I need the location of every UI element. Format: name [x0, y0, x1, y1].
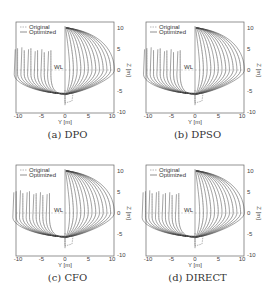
y-tick-labels: 1050-5-10	[247, 25, 256, 115]
y-tick-labels: 1050-5-10	[117, 168, 126, 258]
svg-text:-10: -10	[144, 113, 153, 119]
body-plan-plot: Original Optimized WL -10-50510 1050-5-1…	[130, 143, 265, 271]
y-tick-labels: 1050-5-10	[247, 168, 256, 258]
svg-text:Optimized: Optimized	[29, 29, 56, 35]
body-plan-plot: Original Optimized WL -10-50510 1050-5-1…	[0, 143, 135, 271]
x-axis-label: Y [m]	[58, 262, 72, 268]
svg-text:-10: -10	[247, 252, 256, 258]
svg-text:0: 0	[247, 67, 251, 73]
legend: Original Optimized	[20, 24, 56, 35]
svg-text:5: 5	[247, 189, 251, 195]
svg-text:5: 5	[217, 256, 221, 262]
wl-label: WL	[54, 207, 64, 213]
svg-text:-5: -5	[169, 256, 175, 262]
panel-caption: (b) DPSO	[130, 129, 265, 140]
y-axis-label: Z [m]	[256, 63, 262, 77]
chart-panel-a: Original Optimized WL -10-50510 1050-5-1…	[0, 0, 135, 143]
chart-panel-c: Original Optimized WL -10-50510 1050-5-1…	[0, 143, 135, 286]
svg-text:10: 10	[239, 256, 246, 262]
svg-text:-10: -10	[14, 256, 23, 262]
svg-text:5: 5	[117, 189, 121, 195]
svg-text:-5: -5	[247, 231, 253, 237]
x-axis-label: Y [m]	[188, 262, 202, 268]
y-tick-labels: 1050-5-10	[117, 25, 126, 115]
wl-label: WL	[184, 64, 194, 70]
svg-text:10: 10	[247, 25, 254, 31]
wl-label: WL	[54, 64, 64, 70]
body-plan-plot: Original Optimized WL -10-50510 1050-5-1…	[0, 0, 135, 128]
chart-panel-d: Original Optimized WL -10-50510 1050-5-1…	[130, 143, 265, 286]
svg-text:10: 10	[109, 256, 116, 262]
svg-text:-10: -10	[117, 109, 126, 115]
hull-section-curves	[144, 26, 245, 105]
svg-text:5: 5	[217, 113, 221, 119]
svg-text:-10: -10	[117, 252, 126, 258]
svg-text:-5: -5	[247, 88, 253, 94]
panel-caption: (d) DIRECT	[130, 272, 265, 283]
svg-text:0: 0	[117, 210, 121, 216]
svg-text:5: 5	[247, 46, 251, 52]
hull-section-curves	[142, 169, 244, 248]
legend: Original Optimized	[150, 24, 186, 35]
svg-text:-5: -5	[117, 88, 123, 94]
hull-section-curves	[14, 26, 114, 105]
legend: Original Optimized	[150, 167, 186, 178]
svg-text:-5: -5	[117, 231, 123, 237]
chart-panel-b: Original Optimized WL -10-50510 1050-5-1…	[130, 0, 265, 143]
svg-text:10: 10	[109, 113, 116, 119]
hull-section-curves	[13, 169, 115, 248]
wl-label: WL	[184, 207, 194, 213]
svg-text:Optimized: Optimized	[159, 29, 186, 35]
svg-text:-10: -10	[144, 256, 153, 262]
svg-text:5: 5	[117, 46, 121, 52]
y-axis-label: Z [m]	[256, 206, 262, 220]
svg-text:-5: -5	[39, 256, 45, 262]
svg-text:Optimized: Optimized	[29, 172, 56, 178]
svg-text:10: 10	[117, 168, 124, 174]
svg-text:-10: -10	[14, 113, 23, 119]
x-axis-label: Y [m]	[58, 119, 72, 125]
svg-text:10: 10	[247, 168, 254, 174]
panel-caption: (a) DPO	[0, 129, 135, 140]
panel-caption: (c) CFO	[0, 272, 135, 283]
svg-text:0: 0	[117, 67, 121, 73]
svg-text:10: 10	[117, 25, 124, 31]
svg-text:-5: -5	[39, 113, 45, 119]
svg-text:-10: -10	[247, 109, 256, 115]
svg-text:0: 0	[247, 210, 251, 216]
svg-text:5: 5	[87, 256, 91, 262]
body-plan-plot: Original Optimized WL -10-50510 1050-5-1…	[130, 0, 265, 128]
svg-text:Optimized: Optimized	[159, 172, 186, 178]
svg-text:10: 10	[239, 113, 246, 119]
svg-text:-5: -5	[169, 113, 175, 119]
legend: Original Optimized	[20, 167, 56, 178]
x-axis-label: Y [m]	[188, 119, 202, 125]
svg-text:5: 5	[87, 113, 91, 119]
